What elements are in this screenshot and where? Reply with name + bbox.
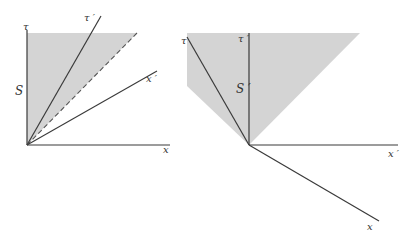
- left-x-prime-label: x ′: [146, 73, 158, 84]
- spacetime-diagrams: τ τ ′ x ′ x S τ τ ′ S ′ x ′ x: [0, 0, 415, 240]
- left-frame-label: S: [15, 84, 23, 98]
- right-x-axis: [249, 145, 379, 221]
- right-frame-label: S ′: [236, 82, 251, 96]
- left-x-label: x: [163, 144, 169, 155]
- left-tau-label: τ: [23, 21, 29, 32]
- left-diagram: τ τ ′ x ′ x S: [15, 12, 170, 155]
- right-shaded-region: [187, 33, 360, 145]
- right-tau-prime-label: τ ′: [238, 33, 250, 44]
- left-tau-prime-label: τ ′: [84, 12, 96, 23]
- right-x-label: x: [367, 221, 373, 232]
- right-diagram: τ τ ′ S ′ x ′ x: [181, 33, 400, 232]
- right-x-prime-label: x ′: [388, 148, 400, 159]
- right-tau-label: τ: [181, 35, 187, 46]
